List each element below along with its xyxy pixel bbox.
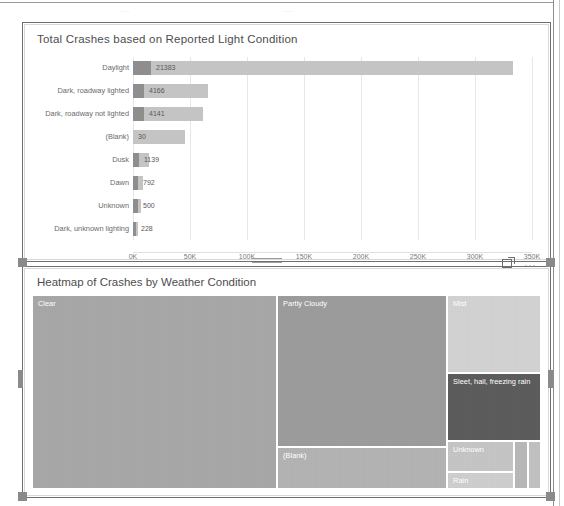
tile-texture [278, 296, 446, 446]
treemap-tile[interactable]: Clear [32, 295, 277, 489]
bar-category-label: (Blank) [0, 130, 129, 144]
bar-category-label: Dark, roadway lighted [0, 84, 129, 98]
clipped-label-left: .... [120, 6, 130, 16]
bar-category-label: Dark, roadway not lighted [0, 107, 129, 121]
treemap-area: ClearPartly Cloudy(Blank)MistSleet, hail… [32, 295, 541, 489]
bar-value-label: 792 [140, 176, 155, 190]
gridline [532, 57, 533, 240]
tile-texture [33, 296, 276, 488]
treemap-tile[interactable] [514, 441, 528, 489]
tile-texture [515, 442, 527, 488]
treemap-title: Heatmap of Crashes by Weather Condition [37, 276, 256, 288]
bar-row[interactable]: (Blank)30 [133, 130, 532, 144]
resize-handle-left-middle[interactable] [18, 370, 23, 388]
resize-handle-bottom-right[interactable] [546, 492, 555, 501]
treemap-tile[interactable]: Partly Cloudy [277, 295, 447, 447]
bar-row[interactable]: Dark, roadway not lighted4141 [133, 107, 532, 121]
treemap-card-inner: Heatmap of Crashes by Weather Condition … [24, 268, 549, 496]
x-tick-label: 50K [184, 253, 196, 260]
clipped-top-row: .... .... [0, 0, 564, 20]
treemap-tile-label: Rain [453, 476, 468, 485]
bar-value-label: 228 [138, 222, 153, 236]
tile-texture [529, 442, 540, 488]
bar-row[interactable]: Dawn792 [133, 176, 532, 190]
top-divider-line [0, 2, 553, 3]
treemap-tile-label: Mist [453, 299, 467, 308]
treemap-tile[interactable]: (Blank) [277, 447, 447, 489]
treemap-tile-label: Sleet, hail, freezing rain [453, 377, 530, 386]
resize-handle-top-right[interactable] [546, 258, 555, 267]
treemap-tile-label: Partly Cloudy [283, 299, 327, 308]
bar-value-label: 30 [135, 130, 146, 144]
bar-segment-dark[interactable] [133, 84, 144, 98]
bar-row[interactable]: Unknown500 [133, 199, 532, 213]
clipped-label-right: .... [283, 6, 293, 16]
bar-value-label: 4166 [146, 84, 165, 98]
treemap-tile-label: Unknown [453, 445, 484, 454]
bar-category-label: Daylight [0, 61, 129, 75]
focus-mode-icon[interactable] [502, 257, 515, 269]
bar-rows: Daylight21383Dark, roadway lighted4166Da… [133, 57, 532, 240]
bar-value-label: 500 [140, 199, 155, 213]
x-tick-label: 0K [129, 253, 138, 260]
bar-segment-dark[interactable] [133, 107, 144, 121]
resize-handle-bottom-left[interactable] [18, 492, 27, 501]
bar-value-label: 4141 [146, 107, 165, 121]
x-axis-ticks: 0K50K100K150K200K250K300K350K [133, 253, 532, 267]
bar-chart-plot-area: Daylight21383Dark, roadway lighted4166Da… [133, 57, 532, 252]
x-tick-label: 200K [353, 253, 369, 260]
treemap-tile[interactable]: Sleet, hail, freezing rain [447, 373, 541, 441]
treemap-tile[interactable]: Mist [447, 295, 541, 373]
treemap-tile[interactable]: Rain [447, 472, 514, 489]
bar-value-label: 21383 [153, 61, 175, 75]
bar-row[interactable]: Dark, unknown lighting228 [133, 222, 532, 236]
bar-chart-card-inner: Total Crashes based on Reported Light Co… [24, 24, 549, 260]
x-tick-label: 150K [296, 253, 312, 260]
bar-category-label: Unknown [0, 199, 129, 213]
bar-row[interactable]: Daylight21383 [133, 61, 532, 75]
treemap-tile[interactable]: Unknown [447, 441, 514, 472]
bar-row[interactable]: Dusk1139 [133, 153, 532, 167]
bar-category-label: Dusk [0, 153, 129, 167]
bar-row[interactable]: Dark, roadway lighted4166 [133, 84, 532, 98]
more-options-icon[interactable]: … [524, 258, 538, 268]
window-right-border-inner [559, 0, 560, 506]
x-tick-label: 250K [410, 253, 426, 260]
treemap-card[interactable]: Heatmap of Crashes by Weather Condition … [22, 266, 551, 498]
resize-handle-right-middle[interactable] [548, 370, 553, 388]
bar-chart-title: Total Crashes based on Reported Light Co… [37, 33, 298, 45]
bar-value-label: 1139 [141, 153, 159, 167]
treemap-card-actions: … [502, 257, 538, 269]
treemap-tile-label: (Blank) [283, 451, 306, 460]
bar-category-label: Dawn [0, 176, 129, 190]
x-tick-label: 300K [467, 253, 483, 260]
treemap-tile[interactable] [528, 441, 541, 489]
bar-category-label: Dark, unknown lighting [0, 222, 129, 236]
bar-chart-card[interactable]: Total Crashes based on Reported Light Co… [22, 22, 551, 262]
resize-handle-top-left[interactable] [18, 258, 27, 267]
treemap-tile-label: Clear [38, 299, 56, 308]
panel-bottom-edge [22, 498, 551, 504]
bar-segment-dark[interactable] [133, 61, 151, 75]
bar-segment-light[interactable] [151, 61, 513, 75]
